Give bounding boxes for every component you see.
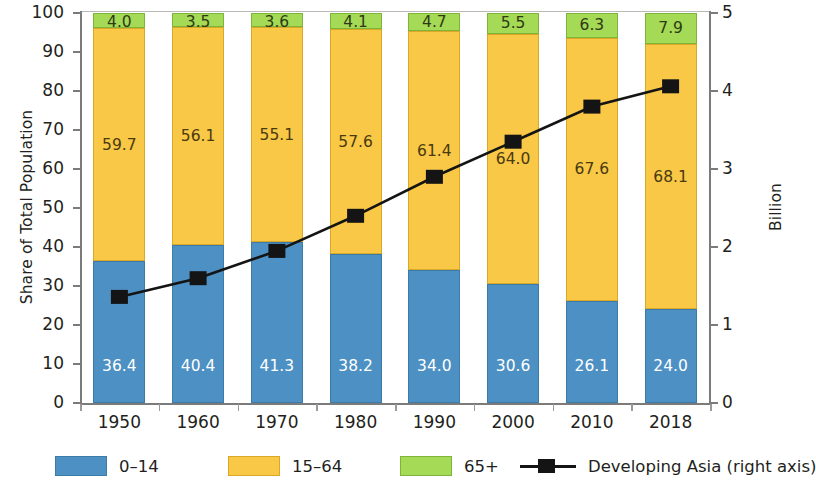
x-axis-category-label: 1960 [153, 414, 243, 431]
bar-value-label: 36.4 [94, 359, 144, 375]
bar-column: 38.257.64.1 [330, 13, 382, 403]
legend-item[interactable]: Developing Asia (right axis) [520, 449, 816, 483]
x-axis-tick [474, 404, 476, 411]
bar-column: 36.459.74.0 [93, 13, 145, 403]
x-axis-tick [553, 404, 555, 411]
bar-segment: 3.5 [172, 13, 224, 27]
y-axis-left-tick-label: 10 [2, 355, 64, 372]
bar-value-label: 3.5 [173, 15, 223, 31]
chart-legend: 0–1415–6465+Developing Asia (right axis) [0, 449, 774, 487]
y-axis-left-tick-label: 80 [2, 82, 64, 99]
y-axis-left-tick-label: 30 [2, 277, 64, 294]
bar-segment: 57.6 [330, 29, 382, 254]
y-axis-left-tick [73, 168, 80, 170]
bar-segment: 5.5 [487, 13, 539, 34]
bar-segment: 3.6 [251, 13, 303, 27]
y-axis-left-tick-label: 0 [2, 394, 64, 411]
bar-segment: 24.0 [645, 309, 697, 403]
blue-swatch [55, 456, 107, 476]
y-axis-right-tick-label: 3 [722, 160, 733, 177]
bar-segment: 4.7 [408, 13, 460, 31]
x-axis-tick [238, 404, 240, 411]
y-axis-left-tick [73, 207, 80, 209]
bar-value-label: 56.1 [173, 129, 223, 145]
black-line-square-marker [520, 456, 576, 476]
x-axis-category-label: 2018 [626, 414, 716, 431]
bar-segment: 40.4 [172, 245, 224, 403]
legend-item[interactable]: 0–14 [55, 449, 159, 483]
y-axis-left-tick-label: 50 [2, 199, 64, 216]
bar-segment: 7.9 [645, 13, 697, 44]
bar-segment: 56.1 [172, 27, 224, 246]
bar-value-label: 59.7 [94, 138, 144, 154]
legend-label: 15–64 [292, 457, 342, 476]
y-axis-left-tick [73, 246, 80, 248]
bar-column: 40.456.13.5 [172, 13, 224, 403]
bar-value-label: 57.6 [331, 135, 381, 151]
bar-value-label: 38.2 [331, 359, 381, 375]
x-axis-tick [159, 404, 161, 411]
y-axis-left-tick-label: 60 [2, 160, 64, 177]
bar-value-label: 4.7 [409, 15, 459, 31]
y-axis-right-tick-label: 0 [722, 394, 733, 411]
green-swatch [400, 456, 452, 476]
y-axis-left-tick-label: 100 [2, 4, 64, 21]
x-axis-tick [631, 404, 633, 411]
y-axis-right-tick-label: 1 [722, 316, 733, 333]
bar-segment: 26.1 [566, 301, 618, 403]
bar-column: 24.068.17.9 [645, 13, 697, 403]
x-axis-category-label: 1950 [74, 414, 164, 431]
y-axis-left-tick [73, 285, 80, 287]
bar-segment: 34.0 [408, 270, 460, 403]
y-axis-right-tick [711, 324, 718, 326]
bar-segment: 59.7 [93, 28, 145, 261]
y-axis-left-tick [73, 12, 80, 14]
bar-value-label: 26.1 [567, 359, 617, 375]
bar-value-label: 30.6 [488, 359, 538, 375]
y-axis-left-tick-label: 70 [2, 121, 64, 138]
bar-segment: 30.6 [487, 284, 539, 403]
y-axis-left-tick [73, 90, 80, 92]
bar-value-label: 34.0 [409, 359, 459, 375]
plot-area: 36.459.74.040.456.13.541.355.13.638.257.… [80, 13, 710, 403]
bar-segment: 36.4 [93, 261, 145, 403]
bar-column: 41.355.13.6 [251, 13, 303, 403]
bar-segment: 55.1 [251, 27, 303, 242]
y-axis-right-tick-label: 4 [722, 82, 733, 99]
x-axis-tick [316, 404, 318, 411]
bar-segment: 68.1 [645, 44, 697, 310]
y-axis-right-tick-label: 2 [722, 238, 733, 255]
x-axis-category-label: 1990 [389, 414, 479, 431]
bar-segment: 4.1 [330, 13, 382, 29]
legend-item[interactable]: 15–64 [228, 449, 342, 483]
y-axis-right-tick-label: 5 [722, 4, 733, 21]
bar-column: 30.664.05.5 [487, 13, 539, 403]
bar-value-label: 3.6 [252, 15, 302, 31]
y-axis-left-tick [73, 363, 80, 365]
legend-item[interactable]: 65+ [400, 449, 499, 483]
y-axis-left-tick [73, 324, 80, 326]
x-axis-tick [80, 404, 82, 411]
bar-value-label: 64.0 [488, 152, 538, 168]
bar-value-label: 24.0 [646, 359, 696, 375]
bar-value-label: 67.6 [567, 162, 617, 178]
y-axis-left-tick [73, 129, 80, 131]
y-axis-left-tick [73, 402, 80, 404]
legend-square-marker [538, 459, 555, 473]
y-axis-right-title: Billion [767, 117, 785, 297]
x-axis-category-label: 1980 [311, 414, 401, 431]
y-axis-left-tick-label: 20 [2, 316, 64, 333]
bar-column: 34.061.44.7 [408, 13, 460, 403]
bar-value-label: 4.1 [331, 15, 381, 31]
legend-label: 0–14 [119, 457, 159, 476]
bar-value-label: 4.0 [94, 15, 144, 31]
x-axis-category-label: 2010 [547, 414, 637, 431]
bar-value-label: 55.1 [252, 128, 302, 144]
x-axis-category-label: 1970 [232, 414, 322, 431]
bar-segment: 6.3 [566, 13, 618, 38]
bar-value-label: 6.3 [567, 18, 617, 34]
y-axis-right-tick [711, 402, 718, 404]
bar-value-label: 7.9 [646, 21, 696, 37]
x-axis-tick [710, 404, 712, 411]
